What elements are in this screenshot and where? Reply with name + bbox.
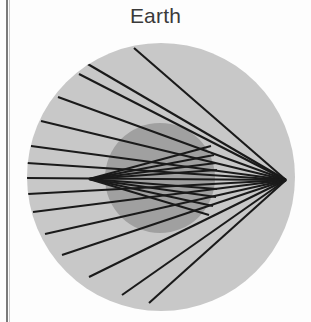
figure-root: Earth: [0, 0, 311, 322]
ray-diagram: [0, 0, 311, 322]
